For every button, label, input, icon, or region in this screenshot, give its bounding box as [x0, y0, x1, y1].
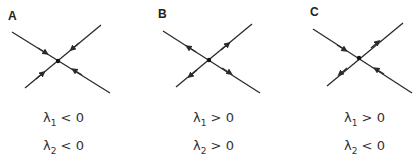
equilibrium-point	[357, 56, 361, 60]
phase-portraits	[0, 0, 420, 161]
lambda-symbol: λ	[193, 138, 201, 153]
trajectory-line	[163, 31, 260, 93]
arrow-icon	[72, 43, 79, 49]
equilibrium-point	[56, 59, 60, 63]
arrow-icon	[188, 47, 196, 52]
panel-b-diagram	[163, 24, 260, 93]
panel-label-a: A	[8, 9, 17, 23]
eigenvalue-condition-c1: λ1 > 0	[344, 110, 385, 128]
panel-label-b: B	[158, 7, 167, 21]
arrow-icon	[38, 48, 46, 53]
equilibrium-point	[207, 58, 211, 62]
eigenvalue-condition-b1: λ1 > 0	[193, 110, 234, 128]
eigenvalue-condition-a1: λ1 < 0	[43, 110, 84, 128]
panel-c-diagram	[313, 23, 412, 93]
arrow-icon	[337, 45, 345, 50]
arrow-icon	[376, 69, 384, 74]
trajectory-line	[12, 32, 110, 93]
arrow-icon	[74, 70, 82, 75]
trajectory-line	[313, 29, 412, 93]
lambda-symbol: λ	[344, 138, 352, 153]
arrow-icon	[190, 70, 197, 76]
lambda-symbol: λ	[43, 110, 51, 125]
trajectory-line	[327, 23, 403, 86]
eigenvalue-condition-c2: λ2 < 0	[344, 138, 385, 156]
lambda-symbol: λ	[43, 138, 51, 153]
arrow-icon	[221, 44, 228, 50]
arrow-icon	[222, 68, 230, 73]
panel-label-c: C	[310, 5, 319, 19]
lambda-symbol: λ	[193, 110, 201, 125]
eigenvalue-condition-b2: λ2 > 0	[193, 138, 234, 156]
lambda-symbol: λ	[344, 110, 352, 125]
eigenvalue-condition-a2: λ2 < 0	[43, 138, 84, 156]
panel-a-diagram	[12, 25, 110, 93]
trajectory-line	[176, 24, 252, 87]
arrow-icon	[36, 73, 43, 79]
